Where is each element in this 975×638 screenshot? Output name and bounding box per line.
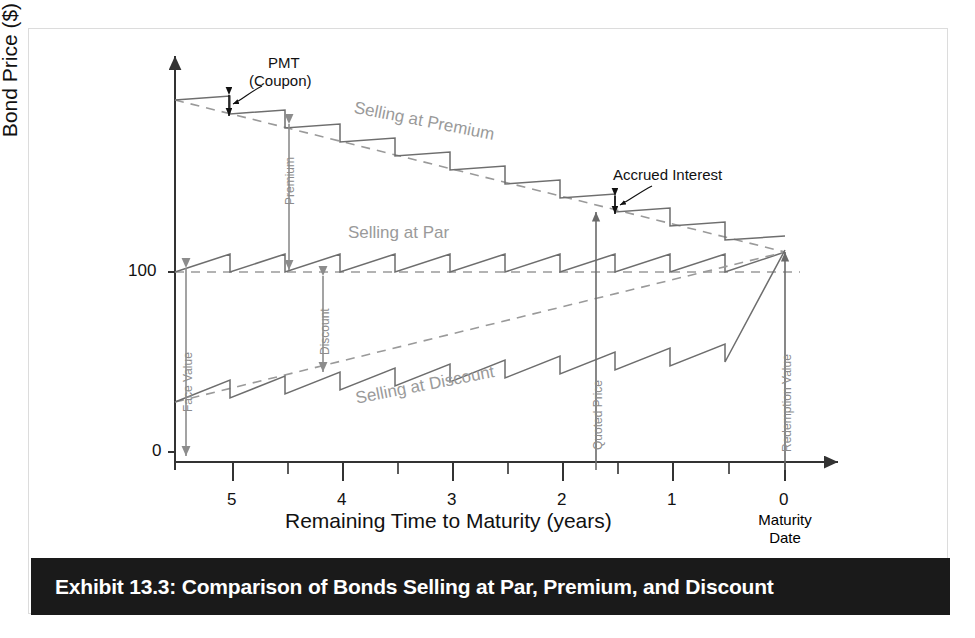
x-axis-title: Remaining Time to Maturity (years)	[285, 509, 612, 533]
pmt-coupon-label-line1: PMT	[268, 54, 300, 71]
accrued-interest-label: Accrued Interest	[613, 166, 722, 183]
y-tick-100: 100	[128, 261, 156, 281]
quoted-price-label: Quoted Price	[591, 380, 605, 450]
exhibit-caption-bar: Exhibit 13.3: Comparison of Bonds Sellin…	[31, 558, 950, 615]
figure-root: Bond Price ($) 100 0 5 4 3 2 1 0 Maturit…	[0, 0, 975, 638]
face-value-label: Face Value	[181, 352, 195, 412]
x-tick-0: 0	[779, 490, 788, 510]
x-tick-1: 1	[667, 490, 676, 510]
y-axis-title: Bond Price ($)	[0, 0, 22, 180]
pmt-coupon-label-line2: (Coupon)	[249, 72, 312, 89]
premium-label: Premium	[283, 157, 297, 205]
series-label-selling-at-par: Selling at Par	[348, 223, 449, 243]
exhibit-caption-text: Exhibit 13.3: Comparison of Bonds Sellin…	[55, 575, 774, 599]
discount-label: Discount	[318, 308, 332, 355]
y-tick-0: 0	[152, 441, 161, 461]
x-tick-3: 3	[447, 490, 456, 510]
x-tick-5: 5	[227, 490, 236, 510]
x-tick-4: 4	[337, 490, 346, 510]
maturity-date-label-line2: Date	[745, 529, 825, 546]
x-tick-2: 2	[557, 490, 566, 510]
maturity-date-label-line1: Maturity	[745, 511, 825, 528]
redemption-value-label: Redemption Value	[780, 354, 794, 452]
